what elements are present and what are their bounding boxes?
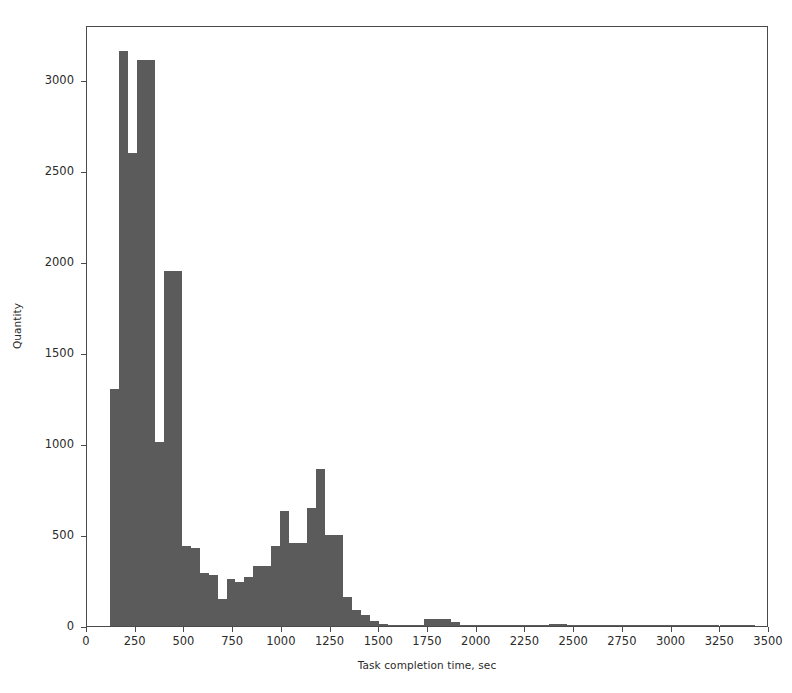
histogram-bar [209,575,218,626]
histogram-bar [110,389,119,626]
histogram-bar [495,625,504,626]
histogram-bar [666,625,675,626]
histogram-bar [388,625,397,626]
histogram-bar [164,271,173,626]
histogram-bar [477,625,486,626]
bars-layer [87,27,767,626]
y-tick-label: 1000 [0,439,74,451]
histogram-bar [558,624,567,626]
plot-area [86,26,768,627]
histogram-bar [648,625,657,626]
x-tick-mark [476,627,477,632]
y-tick-label: 2000 [0,257,74,269]
y-tick-mark [81,172,86,173]
histogram-bar [298,543,307,626]
histogram-bar [549,624,558,626]
histogram-bar [262,566,271,626]
histogram-bar [361,615,370,626]
histogram-bar [531,625,540,626]
histogram-bar [469,625,478,626]
histogram-bar [621,625,630,626]
histogram-bar [253,566,262,626]
histogram-bar [406,625,415,626]
y-tick-mark [81,354,86,355]
x-tick-mark [573,627,574,632]
histogram-bar [235,582,244,626]
histogram-bar [603,625,612,626]
histogram-bar [567,625,576,626]
histogram-bar [451,622,460,626]
histogram-bar [576,625,585,626]
histogram-bar [146,60,155,626]
x-tick-mark [183,627,184,632]
x-tick-mark [768,627,769,632]
histogram-bar [504,625,513,626]
histogram-bar [460,625,469,626]
histogram-bar [334,535,343,626]
x-axis-title: Task completion time, sec [86,659,768,671]
histogram-bar [540,625,549,626]
histogram-bar [325,535,334,626]
x-tick-mark [427,627,428,632]
histogram-bar [630,625,639,626]
x-tick-mark [86,627,87,632]
histogram-bar [397,625,406,626]
histogram-bar [316,469,325,626]
histogram-bar [218,599,227,626]
histogram-bar [424,619,433,626]
histogram-bar [594,625,603,626]
x-tick-mark [232,627,233,632]
histogram-bar [442,619,451,626]
histogram-bar [728,625,737,626]
histogram-bar [415,625,424,626]
x-tick-mark [671,627,672,632]
histogram-bar [119,51,128,627]
histogram-bar [486,625,495,626]
histogram-bar [137,60,146,626]
histogram-bar [522,625,531,626]
y-tick-label: 0 [0,621,74,633]
histogram-bar [684,625,693,626]
histogram-figure: 050010001500200025003000 025050075010001… [0,0,792,693]
histogram-bar [746,625,755,626]
histogram-bar [585,625,594,626]
y-tick-label: 3000 [0,75,74,87]
y-tick-label: 1500 [0,348,74,360]
x-tick-mark [281,627,282,632]
histogram-bar [289,543,298,626]
y-tick-label: 2500 [0,166,74,178]
y-tick-mark [81,263,86,264]
y-tick-mark [81,81,86,82]
y-tick-label: 500 [0,530,74,542]
x-tick-label: 3500 [733,636,792,648]
x-tick-mark [622,627,623,632]
histogram-bar [737,625,746,626]
histogram-bar [639,625,648,626]
x-tick-mark [330,627,331,632]
histogram-bar [657,625,666,626]
histogram-bar [227,579,236,626]
histogram-bar [513,625,522,626]
x-tick-mark [378,627,379,632]
histogram-bar [675,625,684,626]
histogram-bar [379,624,388,626]
y-axis-title: Quantity [11,303,23,349]
y-tick-mark [81,536,86,537]
histogram-bar [711,625,720,626]
x-tick-mark [719,627,720,632]
histogram-bar [155,442,164,626]
histogram-bar [271,546,280,626]
histogram-bar [720,625,729,626]
histogram-bar [200,573,209,626]
histogram-bar [182,546,191,626]
histogram-bar [128,153,137,627]
histogram-bar [173,271,182,626]
histogram-bar [191,548,200,626]
histogram-bar [702,625,711,626]
histogram-bar [244,577,253,626]
histogram-bar [612,625,621,626]
histogram-bar [307,508,316,626]
histogram-bar [352,610,361,626]
x-tick-mark [135,627,136,632]
histogram-bar [370,621,379,626]
